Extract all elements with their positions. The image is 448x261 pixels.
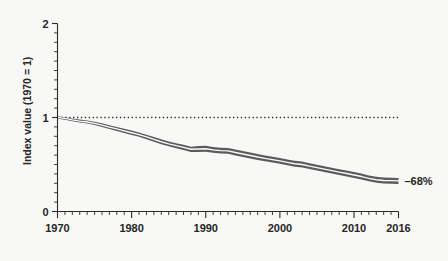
y-axis-tick-labels: 012: [42, 18, 48, 218]
x-tick-label: 1990: [194, 222, 218, 234]
x-tick-label: 1980: [119, 222, 143, 234]
x-tick-label: 2016: [386, 222, 410, 234]
chart-container: 012 197019801990200020102016 Index value…: [0, 0, 448, 261]
x-axis-tick-labels: 197019801990200020102016: [45, 222, 410, 234]
y-axis-ticks: [52, 24, 58, 212]
line-chart: 012 197019801990200020102016 Index value…: [0, 0, 448, 261]
annotation-percent-change: –68%: [405, 175, 433, 187]
y-tick-label: 1: [42, 112, 48, 124]
x-tick-label: 2000: [268, 222, 292, 234]
y-tick-label: 2: [42, 18, 48, 30]
y-tick-label: 0: [42, 206, 48, 218]
x-tick-label: 2010: [342, 222, 366, 234]
x-tick-label: 1970: [45, 222, 69, 234]
y-axis-title: Index value (1970 = 1): [21, 57, 33, 165]
x-axis-ticks: [58, 212, 399, 219]
